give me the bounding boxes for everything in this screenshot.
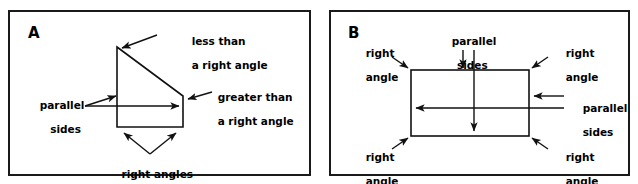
label-greater-than-right-angle-line1: greater than: [218, 91, 293, 103]
label-parallel-sides-top-b-line1: parallel: [452, 35, 497, 47]
panel-a-letter: A: [28, 24, 40, 42]
label-right-angle-bottom-right-line1: right: [566, 151, 595, 163]
label-greater-than-right-angle: greater than a right angle: [203, 79, 294, 139]
label-parallel-sides-a: parallel sides: [25, 87, 81, 147]
figure-root: A B: [0, 0, 638, 184]
label-right-angle-top-right-line1: right: [566, 47, 595, 59]
label-right-angle-top-left: right angle: [351, 35, 398, 95]
label-right-angle-bottom-left-line1: right: [366, 151, 395, 163]
label-parallel-sides-right-b-line1: parallel: [583, 102, 628, 114]
label-right-angle-top-right: right angle: [551, 35, 598, 95]
label-less-than-right-angle-line1: less than: [192, 35, 246, 47]
label-right-angle-top-left-line2: angle: [366, 71, 399, 83]
label-right-angle-bottom-right-line2: angle: [566, 175, 599, 184]
label-parallel-sides-right-b-line2: sides: [583, 126, 614, 138]
label-parallel-sides-a-line2: sides: [50, 123, 81, 135]
label-right-angle-bottom-right: right angle: [551, 139, 598, 184]
label-less-than-right-angle-line2: a right angle: [192, 59, 268, 71]
label-right-angle-top-right-line2: angle: [566, 71, 599, 83]
label-right-angle-bottom-left: right angle: [351, 139, 398, 184]
label-parallel-sides-top-b-line2: sides: [457, 59, 488, 71]
label-right-angles-a: right angles: [105, 156, 195, 184]
label-right-angle-top-left-line1: right: [366, 47, 395, 59]
label-greater-than-right-angle-line2: a right angle: [218, 115, 294, 127]
label-right-angle-bottom-left-line2: angle: [366, 175, 399, 184]
label-right-angles-a-line1: right angles: [122, 168, 194, 180]
label-parallel-sides-top-b: parallel sides: [437, 23, 493, 83]
label-less-than-right-angle: less than a right angle: [177, 23, 268, 83]
label-parallel-sides-a-line1: parallel: [40, 99, 85, 111]
